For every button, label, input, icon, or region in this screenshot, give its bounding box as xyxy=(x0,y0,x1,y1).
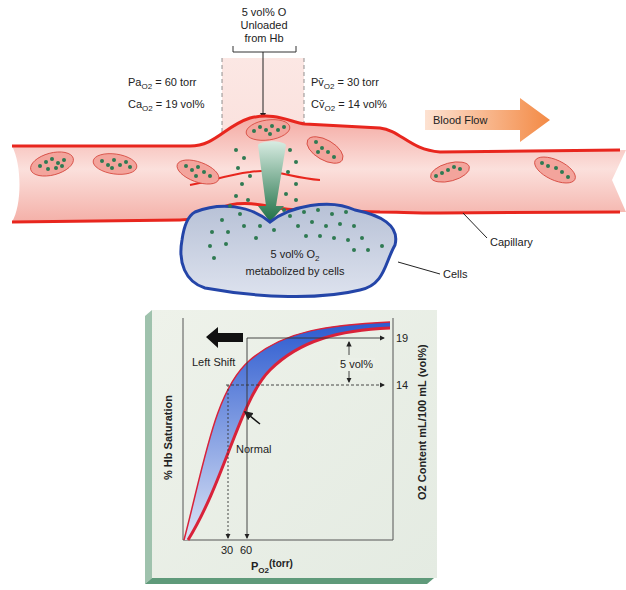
five-vol-label: 5 vol% xyxy=(338,358,375,371)
unloaded-line-3: from Hb xyxy=(233,32,295,45)
unloaded-label: 5 vol% O Unloaded from Hb xyxy=(233,6,295,45)
unloaded-line-2: Unloaded xyxy=(233,19,295,32)
pao2-label: PaO2 = 60 torr xyxy=(128,76,196,93)
tick-14: 14 xyxy=(396,379,408,392)
cells-label: Cells xyxy=(443,268,467,281)
capillary-label: Capillary xyxy=(490,236,533,249)
cao2-label: CaO2 = 19 vol% xyxy=(128,98,204,115)
dissociation-curve-chart xyxy=(145,310,437,584)
tick-30: 30 xyxy=(221,544,233,557)
normal-label: Normal xyxy=(236,443,271,456)
tick-60: 60 xyxy=(240,544,252,557)
y-axis-right-label: O2 Content mL/100 mL (vol%) xyxy=(416,344,428,500)
x-axis-label: PO2(torr) xyxy=(251,557,293,577)
cvo2-label: Cv̄O2 = 14 vol% xyxy=(311,98,387,115)
y-axis-left-label: % Hb Saturation xyxy=(162,395,174,480)
unloaded-line-1: 5 vol% O xyxy=(233,6,295,19)
tick-19: 19 xyxy=(396,332,408,345)
blood-flow-label: Blood Flow xyxy=(433,114,487,127)
left-shift-label: Left Shift xyxy=(192,356,235,369)
metabolized-label: 5 vol% O2 metabolized by cells xyxy=(240,248,350,278)
pvo2-label: Pv̄O2 = 30 torr xyxy=(311,76,379,93)
